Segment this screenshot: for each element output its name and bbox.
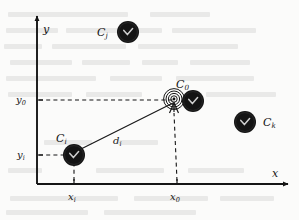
nodes-layer [63, 21, 256, 166]
antenna-transmitter-icon [164, 89, 185, 113]
sensor-node-icon [117, 21, 139, 43]
x-tick-label-x0: x0 [170, 192, 180, 202]
sensor-node-icon [182, 90, 204, 112]
sensor-node-icon [63, 144, 85, 166]
distance-line-di [79, 103, 173, 150]
node-label-Cj: Cj [97, 27, 108, 38]
distance-label-di: di [113, 136, 122, 146]
y-tick-label-y0: y0 [16, 95, 26, 105]
node-label-C0: C0 [176, 79, 189, 90]
node-label-Ci: Ci [56, 133, 67, 144]
y-tick-label-yi: yi [17, 150, 25, 160]
guide-x0-vertical [174, 113, 177, 181]
y-axis-label: y [43, 24, 49, 35]
x-axis-label: x [272, 168, 278, 179]
sensor-node-icon [234, 111, 256, 133]
node-label-Ck: Ck [263, 117, 276, 128]
sensor-localization-figure: yxxix0y0yiCjC0CiCkdi [0, 0, 299, 220]
x-tick-label-xi: xi [68, 192, 76, 202]
distance-line-layer [79, 103, 173, 150]
